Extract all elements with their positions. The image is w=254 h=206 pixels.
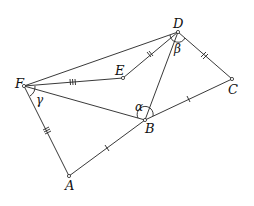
label-gamma: γ [36, 93, 44, 107]
point-C [230, 77, 233, 80]
label-E: E [114, 63, 125, 78]
label-F: F [14, 76, 25, 91]
segment-DC [178, 32, 232, 79]
label-B: B [144, 121, 155, 136]
label-beta: β [173, 42, 181, 56]
label-A: A [64, 178, 74, 193]
tick-mark-AB [105, 145, 109, 151]
geometry-diagram: D E F C B A α β γ [0, 0, 254, 206]
segment-FE [24, 78, 123, 86]
segment-FD [24, 32, 178, 86]
label-C: C [228, 82, 238, 97]
diagram-svg: D E F C B A α β γ [0, 0, 254, 206]
tick-marks-FA [43, 127, 51, 134]
label-D: D [172, 16, 184, 31]
label-alpha: α [135, 100, 143, 114]
